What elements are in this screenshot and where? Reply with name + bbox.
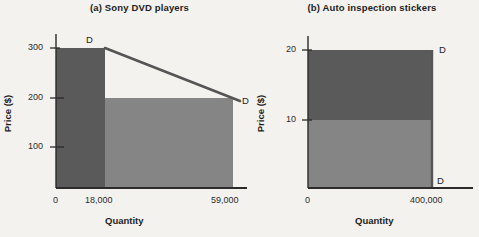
revenue-rect-price-300 bbox=[56, 48, 105, 188]
demand-curve-elastic bbox=[105, 48, 240, 101]
panel-sony-dvd-players: (a) Sony DVD players Price ($) 300 200 1… bbox=[0, 0, 255, 237]
revenue-rect-price-20 bbox=[308, 50, 432, 120]
y-tick-label-10: 10 bbox=[286, 114, 296, 124]
x-tick-label-0: 0 bbox=[53, 195, 58, 205]
y-tick-label-200: 200 bbox=[28, 92, 43, 102]
x-tick-label-400000: 400,000 bbox=[410, 195, 443, 205]
revenue-rect-price-10 bbox=[308, 120, 432, 188]
x-tick-label-59000: 59,000 bbox=[211, 195, 239, 205]
panel-a-y-axis-label: Price ($) bbox=[2, 95, 13, 133]
y-tick-label-300: 300 bbox=[28, 42, 43, 52]
demand-label-end: D bbox=[242, 95, 249, 106]
elasticity-revenue-figure: (a) Sony DVD players Price ($) 300 200 1… bbox=[0, 0, 479, 237]
x-tick-label-0: 0 bbox=[305, 195, 310, 205]
demand-label-bottom: D bbox=[437, 175, 444, 186]
panel-b-y-axis-label: Price ($) bbox=[255, 95, 266, 133]
demand-label-start: D bbox=[86, 34, 93, 45]
y-tick-label-100: 100 bbox=[28, 141, 43, 151]
panel-a-x-axis-label: Quantity bbox=[105, 215, 144, 226]
y-tick-label-20: 20 bbox=[286, 44, 296, 54]
panel-b-x-axis-label: Quantity bbox=[355, 215, 394, 226]
demand-label-top: D bbox=[439, 44, 446, 55]
x-tick-label-18000: 18,000 bbox=[85, 195, 113, 205]
panel-auto-inspection-stickers: (b) Auto inspection stickers Price ($) 2… bbox=[255, 0, 479, 237]
